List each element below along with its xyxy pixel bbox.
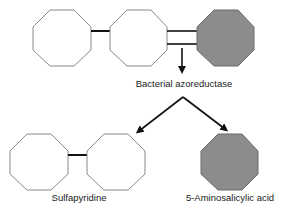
- ring-2-octagon: [110, 10, 167, 66]
- ring-3-octagon-gray: [197, 10, 254, 66]
- reaction-diagram: [0, 0, 288, 212]
- aminosalicylic-acid-octagon-gray: [201, 134, 258, 190]
- ring-1-octagon: [33, 10, 91, 66]
- split-arrows: [139, 97, 225, 131]
- arrow-left-icon: [139, 97, 183, 131]
- arrow-right-icon: [183, 97, 225, 129]
- sulfapyridine-molecule: [10, 134, 145, 190]
- enzyme-label: Bacterial azoreductase: [136, 78, 233, 89]
- product-label-5-asa: 5-Aminosalicylic acid: [186, 192, 274, 203]
- product-label-sulfapyridine: Sulfapyridine: [52, 192, 107, 203]
- parent-molecule: [33, 10, 254, 66]
- sulfapyridine-ring-1-octagon: [10, 134, 68, 190]
- sulfapyridine-ring-2-octagon: [87, 134, 145, 190]
